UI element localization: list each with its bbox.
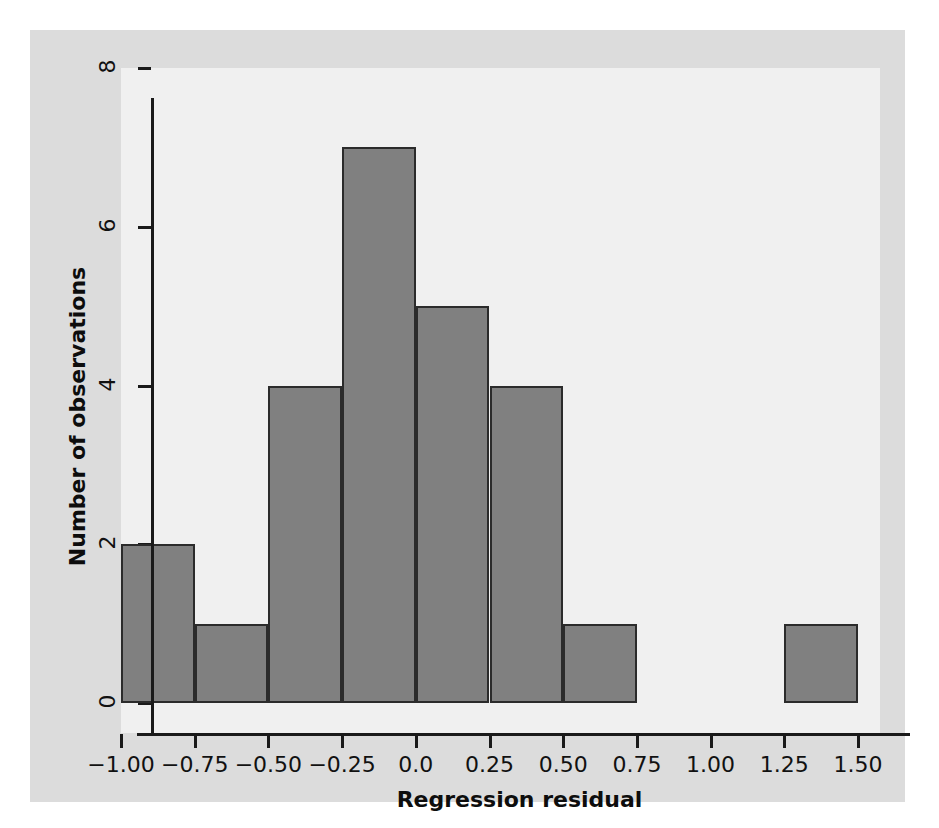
histogram-bar [490,386,564,704]
histogram-bar [563,624,637,703]
y-tick-label: 6 [95,210,120,240]
histogram-bars [121,68,858,703]
y-tick-label: 4 [95,369,120,399]
y-axis-title-text: Number of observations [66,266,91,565]
x-axis-tick [341,734,344,748]
x-tick-label: 1.25 [760,752,809,777]
histogram-bar [416,306,490,703]
x-tick-label: −0.25 [308,752,375,777]
x-tick-label: 1.00 [686,752,735,777]
x-tick-label: 0.25 [465,752,514,777]
y-tick-label: 8 [95,52,120,82]
x-axis-tick [415,734,418,748]
x-axis-line [137,733,910,736]
x-axis-tick [636,734,639,748]
histogram-bar [342,147,416,703]
x-tick-label: 0.0 [398,752,433,777]
x-axis-tick [194,734,197,748]
x-tick-label: −0.50 [235,752,302,777]
y-axis-line [151,98,154,735]
histogram-bar [195,624,269,703]
x-tick-label: 0.75 [612,752,661,777]
x-axis-tick [783,734,786,748]
x-axis-tick [489,734,492,748]
x-axis-tick [267,734,270,748]
y-tick-label: 0 [95,687,120,717]
x-axis-tick [857,734,860,748]
x-axis-tick [710,734,713,748]
x-tick-label: −0.75 [161,752,228,777]
histogram-bar [121,544,195,703]
x-axis-title: Regression residual [151,787,888,812]
x-axis-tick [120,734,123,748]
histogram-bar [784,624,858,703]
x-tick-label: 1.50 [834,752,883,777]
figure-panel: Number of observations 02468 −1.00−0.75−… [30,30,905,802]
x-tick-label: 0.50 [539,752,588,777]
y-axis-title: Number of observations [63,30,93,802]
x-axis-tick [562,734,565,748]
x-tick-label: −1.00 [87,752,154,777]
y-tick-label: 2 [95,528,120,558]
histogram-bar [268,386,342,704]
